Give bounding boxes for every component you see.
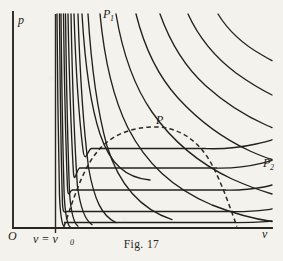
lower-isotherm-label-subscript: 2 <box>270 163 274 172</box>
axes-group <box>13 12 272 228</box>
y-axis-label: p <box>17 13 24 27</box>
figure-caption: Fig. 17 <box>0 238 283 250</box>
pv-isotherm-plot: p O v v = v 0 P 1 P P 2 <box>0 0 283 261</box>
subcritical-right-branch-5 <box>237 221 273 223</box>
upper-isotherm-label-subscript: 1 <box>110 14 114 23</box>
subcritical-right-branch-4 <box>233 209 272 212</box>
isotherm-curve-4 <box>71 14 92 225</box>
isotherms-subcritical-branches <box>60 14 273 223</box>
isotherm-curve-8 <box>116 14 272 194</box>
subcritical-right-branch-1 <box>206 140 272 149</box>
isotherm-curve-12 <box>218 14 272 61</box>
annotation-p: P <box>155 113 164 127</box>
isotherm-curve-9 <box>136 14 272 160</box>
tie-line-segments <box>64 149 237 223</box>
isotherm-curve-11 <box>188 14 272 95</box>
annotation-p2: P 2 <box>262 156 274 172</box>
critical-point-label: P <box>155 113 164 127</box>
annotation-p1: P 1 <box>102 7 114 23</box>
figure-container: p O v v = v 0 P 1 P P 2 Fig. 17 <box>0 0 283 261</box>
isotherm-curve-10 <box>160 14 272 128</box>
